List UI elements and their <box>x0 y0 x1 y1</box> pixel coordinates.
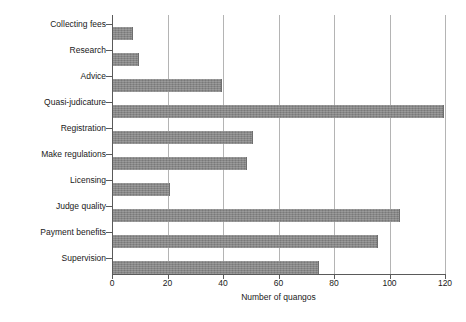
y-tick-mark <box>106 232 113 233</box>
y-tick-mark <box>106 50 113 51</box>
category-label: Advice <box>80 72 106 81</box>
y-tick-mark <box>106 24 113 25</box>
bar <box>113 105 444 118</box>
x-axis-tick-labels: 020406080100120 <box>112 279 445 293</box>
bar <box>113 131 253 144</box>
category-label: Collecting fees <box>50 20 106 29</box>
category-label: Licensing <box>70 176 106 185</box>
plot-area <box>112 15 445 275</box>
gridline <box>445 15 446 275</box>
bar <box>113 183 170 196</box>
x-axis-title: Number of quangos <box>112 293 445 302</box>
bar <box>113 235 378 248</box>
category-label: Payment benefits <box>40 228 106 237</box>
x-tick-label: 20 <box>163 279 172 288</box>
x-tick-label: 60 <box>274 279 283 288</box>
y-tick-mark <box>106 258 113 259</box>
category-label: Research <box>70 46 106 55</box>
y-tick-mark <box>106 206 113 207</box>
y-tick-mark <box>106 128 113 129</box>
x-tick-label: 40 <box>218 279 227 288</box>
chart-container: Collecting feesResearchAdviceQuasi-judic… <box>0 0 466 322</box>
y-tick-mark <box>106 76 113 77</box>
category-label: Make regulations <box>41 150 106 159</box>
bar <box>113 53 139 66</box>
x-tick-label: 100 <box>382 279 396 288</box>
x-tick-label: 80 <box>329 279 338 288</box>
category-label: Registration <box>61 124 106 133</box>
bar <box>113 157 247 170</box>
category-label: Supervision <box>62 254 106 263</box>
x-tick-label: 0 <box>110 279 115 288</box>
category-label: Judge quality <box>56 202 106 211</box>
bar <box>113 79 222 92</box>
y-tick-mark <box>106 180 113 181</box>
y-tick-mark <box>106 154 113 155</box>
bar <box>113 27 133 40</box>
x-tick-label: 120 <box>438 279 452 288</box>
y-tick-mark <box>106 102 113 103</box>
y-axis-category-labels: Collecting feesResearchAdviceQuasi-judic… <box>0 0 106 322</box>
category-label: Quasi-judicature <box>44 98 106 107</box>
gridline <box>390 15 391 275</box>
bar <box>113 209 400 222</box>
bar <box>113 261 319 274</box>
